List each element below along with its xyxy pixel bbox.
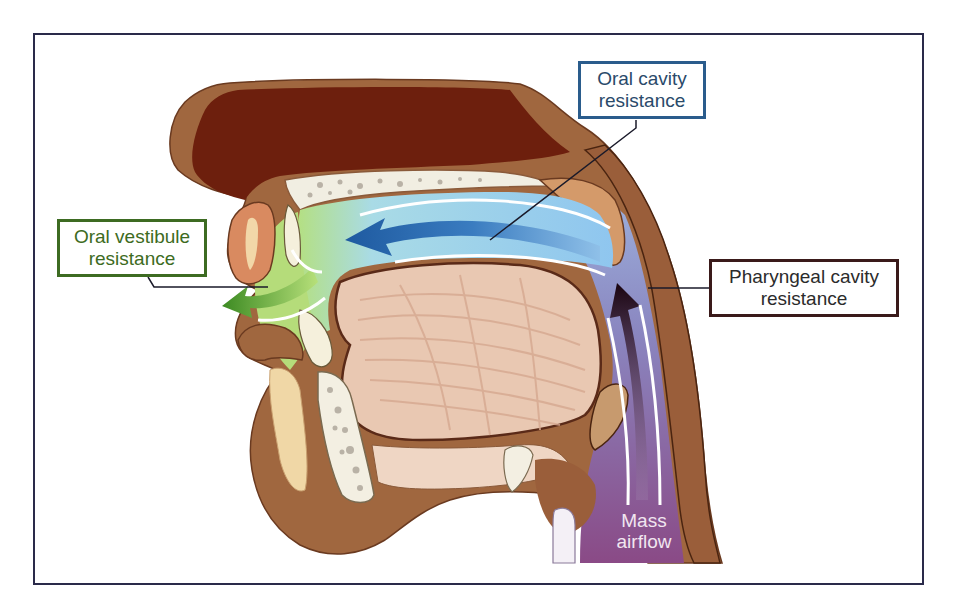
pharyngeal-cavity-resistance-label: Pharyngeal cavity resistance bbox=[709, 259, 899, 317]
oral-vestibule-resistance-label: Oral vestibule resistance bbox=[57, 219, 207, 277]
mass-airflow-label: Mass airflow bbox=[604, 510, 684, 552]
oral-vestibule-label-line2: resistance bbox=[68, 248, 196, 270]
pharyngeal-label-line2: resistance bbox=[720, 288, 888, 310]
tongue bbox=[335, 263, 600, 440]
oral-cavity-label-line1: Oral cavity bbox=[589, 68, 695, 90]
oral-cavity-label-line2: resistance bbox=[589, 90, 695, 112]
mass-airflow-line1: Mass bbox=[604, 510, 684, 531]
trachea bbox=[553, 508, 575, 563]
pharyngeal-label-line1: Pharyngeal cavity bbox=[720, 266, 888, 288]
oral-vestibule-label-line1: Oral vestibule bbox=[68, 226, 196, 248]
oral-cavity-resistance-label: Oral cavity resistance bbox=[578, 61, 706, 119]
mass-airflow-line2: airflow bbox=[604, 531, 684, 552]
